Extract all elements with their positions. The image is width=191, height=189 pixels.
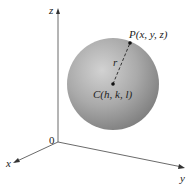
y-arrow-icon: [178, 164, 185, 169]
x-axis-label: x: [6, 158, 11, 169]
z-arrow-icon: [56, 8, 60, 14]
point-p: [128, 41, 132, 45]
sphere-diagram: z x y 0 P(x, y, z) C(h, k, l) r: [0, 0, 191, 189]
z-axis-label: z: [49, 5, 53, 16]
origin-label: 0: [49, 135, 55, 146]
point-c: [111, 82, 115, 86]
point-c-label: C(h, k, l): [93, 89, 132, 100]
x-arrow-icon: [13, 158, 20, 163]
y-axis: [58, 142, 182, 167]
radius-label: r: [113, 57, 117, 68]
point-p-label: P(x, y, z): [129, 29, 167, 40]
y-axis-label: y: [180, 173, 185, 184]
